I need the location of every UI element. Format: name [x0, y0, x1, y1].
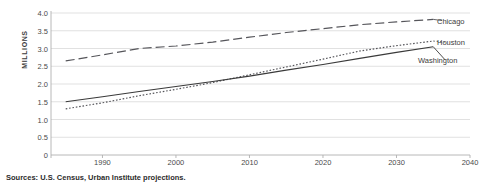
source-note: Sources: U.S. Census, Urban Institute pr…: [6, 173, 186, 182]
x-axis-tick-label: 2030: [388, 158, 405, 167]
population-projection-line-chart: MILLIONS 4.03.53.02.52.01.51.00.50 19902…: [0, 0, 491, 187]
x-axis-tick-label: 2010: [241, 158, 258, 167]
x-axis-tick-label: 1990: [94, 158, 111, 167]
x-axis-tick-label: 2020: [315, 158, 332, 167]
legend-label-houston: Houston: [437, 38, 465, 47]
x-axis-tick-label: 2040: [462, 158, 479, 167]
legend-label-washington: Washington: [418, 56, 457, 65]
x-axis-tick-label: 2000: [168, 158, 185, 167]
series-line-chicago: [66, 19, 434, 61]
legend-label-chicago: Chicago: [437, 17, 465, 26]
